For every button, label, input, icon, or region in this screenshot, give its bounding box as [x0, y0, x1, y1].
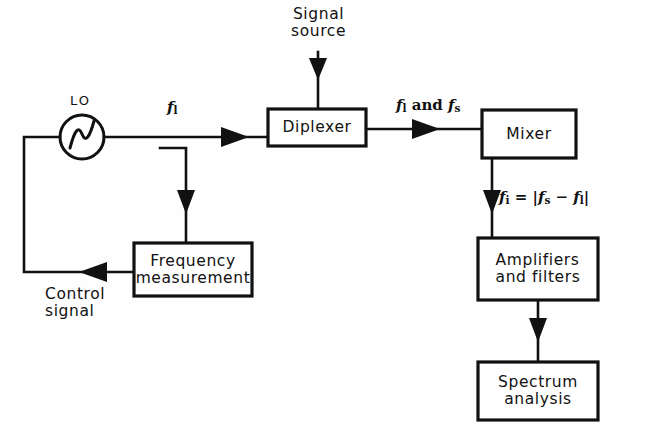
arrow-head-left-control-signal [79, 262, 107, 282]
block-amplifiers-and-filters[interactable] [478, 238, 598, 300]
block-mixer[interactable] [482, 110, 576, 158]
lo-label: LO [70, 93, 91, 108]
connection-lo-tap-to-frequency [160, 148, 195, 243]
arrow-head-right-diplexer [412, 119, 440, 139]
signal-label-f-lo: fl [167, 98, 177, 116]
block-diagram: Diplexer Mixer Frequency measurement Amp… [0, 0, 646, 437]
arrow-head-right-lo [221, 127, 249, 147]
block-spectrum-analysis[interactable] [478, 362, 598, 420]
diagram-canvas [0, 0, 646, 437]
connection-lo-to-diplexer [104, 127, 268, 147]
signal-source-label: Signal source [291, 6, 346, 41]
arrow-head-down-amplifiers [529, 318, 547, 342]
block-diplexer[interactable] [268, 109, 366, 146]
local-oscillator-symbol [60, 115, 104, 159]
control-signal-label: Control signal [45, 286, 105, 321]
block-frequency-measurement[interactable] [134, 243, 252, 296]
arrow-head-down-tap [177, 190, 195, 214]
connection-amplifiers-to-spectrum [529, 300, 547, 362]
arrow-head-down-signal-source [309, 58, 327, 80]
connection-signal-source-to-diplexer [309, 52, 327, 109]
signal-label-f-if: fi = |fs − fl| [499, 188, 589, 206]
signal-label-f-lo-and-fs: fl and fs [396, 96, 460, 114]
connection-diplexer-to-mixer [366, 119, 482, 139]
